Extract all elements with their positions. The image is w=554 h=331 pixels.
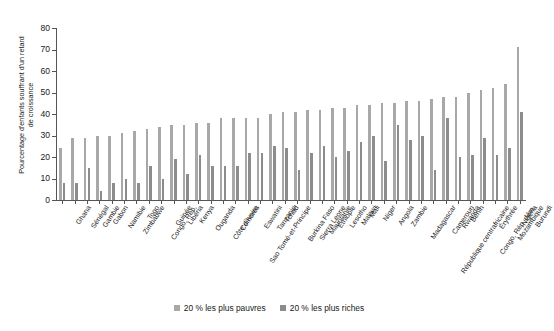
x-tick-label: Niger (382, 204, 398, 223)
bar-poorest-quintile (343, 108, 346, 200)
bar-group (195, 28, 201, 200)
legend-swatch-icon (280, 305, 286, 311)
bar-group (492, 28, 498, 200)
bar-richest-quintile (149, 166, 152, 200)
bar-richest-quintile (174, 159, 177, 200)
bar-richest-quintile (372, 136, 375, 201)
bar-group (393, 28, 399, 200)
y-tick-label: 0 (45, 195, 50, 205)
bar-group (257, 28, 263, 200)
bar-group (418, 28, 424, 200)
bar-poorest-quintile (480, 90, 483, 200)
bar-richest-quintile (88, 168, 91, 200)
y-tick-mark (52, 200, 56, 201)
x-tick-label: Ouganda (214, 204, 237, 233)
bar-poorest-quintile (133, 131, 136, 200)
bar-poorest-quintile (492, 88, 495, 200)
y-tick-label: 10 (40, 173, 50, 183)
bar-richest-quintile (63, 183, 66, 200)
bar-richest-quintile (323, 146, 326, 200)
bar-richest-quintile (224, 166, 227, 200)
y-tick-label: 40 (40, 109, 50, 119)
y-axis-title: Pourcentage d'enfants souffrant d'un ret… (13, 5, 39, 205)
bar-group (504, 28, 510, 200)
y-tick-label: 80 (40, 23, 50, 33)
legend-item: 20 % les plus pauvres (174, 303, 266, 313)
bar-richest-quintile (397, 125, 400, 200)
bar-poorest-quintile (504, 84, 507, 200)
bar-group (517, 28, 523, 200)
bar-poorest-quintile (59, 148, 62, 200)
y-axis-title-line-1: Pourcentage d'enfants souffrant d'un ret… (17, 36, 26, 174)
bar-poorest-quintile (455, 97, 458, 200)
bar-richest-quintile (112, 183, 115, 200)
plot-area: 01020304050607080 (56, 28, 526, 200)
bar-group (183, 28, 189, 200)
bar-poorest-quintile (282, 112, 285, 200)
bar-group (343, 28, 349, 200)
bar-poorest-quintile (467, 93, 470, 201)
bar-richest-quintile (248, 153, 251, 200)
bar-group (269, 28, 275, 200)
bar-poorest-quintile (331, 108, 334, 200)
bar-poorest-quintile (232, 118, 235, 200)
legend-swatch-icon (174, 305, 180, 311)
bar-group (405, 28, 411, 200)
x-tick-label: Madagascar (429, 204, 457, 241)
bar-poorest-quintile (269, 114, 272, 200)
bar-richest-quintile (520, 112, 523, 200)
bar-richest-quintile (298, 170, 301, 200)
bar-richest-quintile (261, 153, 264, 200)
bar-richest-quintile (162, 179, 165, 201)
bar-group (232, 28, 238, 200)
y-tick-label: 30 (40, 130, 50, 140)
bar-richest-quintile (446, 118, 449, 200)
bar-group (121, 28, 127, 200)
bar-poorest-quintile (121, 133, 124, 200)
legend: 20 % les plus pauvres20 % les plus riche… (0, 303, 538, 313)
legend-label: 20 % les plus riches (290, 303, 364, 313)
bar-group (442, 28, 448, 200)
bar-group (368, 28, 374, 200)
bar-richest-quintile (335, 157, 338, 200)
bar-group (294, 28, 300, 200)
bar-richest-quintile (347, 151, 350, 200)
bar-poorest-quintile (96, 136, 99, 201)
y-tick-label: 70 (40, 44, 50, 54)
x-axis-line (56, 200, 526, 201)
bar-richest-quintile (421, 136, 424, 201)
bar-poorest-quintile (84, 138, 87, 200)
bar-group (306, 28, 312, 200)
bar-group (207, 28, 213, 200)
bar-poorest-quintile (442, 97, 445, 200)
bar-richest-quintile (384, 161, 387, 200)
bar-richest-quintile (471, 155, 474, 200)
bar-group (158, 28, 164, 200)
bar-poorest-quintile (108, 136, 111, 201)
bar-poorest-quintile (207, 123, 210, 200)
y-tick-label: 60 (40, 66, 50, 76)
bar-richest-quintile (137, 183, 140, 200)
bar-richest-quintile (186, 174, 189, 200)
bar-richest-quintile (211, 166, 214, 200)
bar-richest-quintile (409, 140, 412, 200)
bar-poorest-quintile (146, 129, 149, 200)
bar-poorest-quintile (195, 123, 198, 200)
bar-group (430, 28, 436, 200)
bar-richest-quintile (199, 155, 202, 200)
bar-richest-quintile (434, 170, 437, 200)
bar-group (467, 28, 473, 200)
bar-richest-quintile (100, 191, 103, 200)
legend-label: 20 % les plus pauvres (184, 303, 266, 313)
y-tick-label: 50 (40, 87, 50, 97)
bar-group (282, 28, 288, 200)
bar-poorest-quintile (245, 118, 248, 200)
y-tick-label: 20 (40, 152, 50, 162)
bar-poorest-quintile (306, 110, 309, 200)
bar-group (480, 28, 486, 200)
bar-group (71, 28, 77, 200)
bar-poorest-quintile (405, 101, 408, 200)
bar-richest-quintile (273, 146, 276, 200)
bar-group (331, 28, 337, 200)
